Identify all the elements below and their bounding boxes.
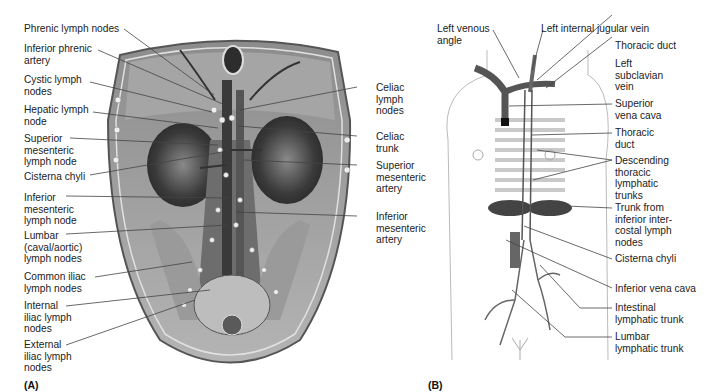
label-inferior-phrenic-artery: Inferior phrenic artery	[24, 43, 92, 66]
panel-b-illustration	[447, 50, 608, 360]
label-common-iliac-lymph-nodes: Common iliac lymph nodes	[24, 271, 86, 294]
label-superior-mesenteric-artery: Superior mesenteric artery	[376, 160, 426, 195]
label-descending-thoracic-lymphatic-trunks: Descending thoracic lymphatic trunks	[615, 155, 669, 201]
label-phrenic-lymph-nodes: Phrenic lymph nodes	[24, 23, 119, 35]
panel-b-tag: (B)	[428, 379, 443, 391]
panel-a-tag: (A)	[24, 379, 39, 391]
label-internal-iliac-lymph-nodes: Internal iliac lymph nodes	[24, 300, 72, 335]
label-left-subclavian-vein: Left subclavian vein	[615, 58, 663, 93]
label-intestinal-lymphatic-trunk: Intestinal lymphatic trunk	[615, 302, 684, 325]
panel-a-illustration	[108, 41, 350, 363]
label-thoracic-duct-upper: Thoracic duct	[615, 40, 676, 52]
label-superior-mesenteric-lymph-node: Superior mesenteric lymph node	[24, 133, 77, 168]
label-cisterna-chyli-a: Cisterna chyli	[24, 171, 85, 183]
label-lumbar-lymph-nodes: Lumbar (caval/aortic) lymph nodes	[24, 230, 82, 265]
label-external-iliac-lymph-nodes: External iliac lymph nodes	[24, 339, 72, 374]
label-left-internal-jugular-vein: Left internal jugular vein	[541, 23, 649, 35]
label-inferior-mesenteric-lymph-node: Inferior mesenteric lymph node	[24, 192, 77, 227]
label-trunk-from-inferior-intercostal-lymph-nodes: Trunk from inferior inter- costal lymph …	[615, 202, 672, 248]
label-superior-vena-cava: Superior vena cava	[615, 98, 661, 121]
label-left-venous-angle: Left venous angle	[437, 23, 490, 46]
label-thoracic-duct-lower: Thoracic duct	[615, 127, 654, 150]
label-hepatic-lymph-node: Hepatic lymph node	[24, 104, 89, 127]
label-cisterna-chyli-b: Cisterna chyli	[615, 253, 676, 265]
label-cystic-lymph-nodes: Cystic lymph nodes	[24, 74, 82, 97]
label-lumbar-lymphatic-trunk: Lumbar lymphatic trunk	[615, 331, 684, 354]
label-celiac-trunk: Celiac trunk	[376, 131, 404, 154]
label-celiac-lymph-nodes: Celiac lymph nodes	[376, 82, 404, 117]
label-inferior-vena-cava: Inferior vena cava	[615, 283, 696, 295]
label-inferior-mesenteric-artery: Inferior mesenteric artery	[376, 211, 426, 246]
